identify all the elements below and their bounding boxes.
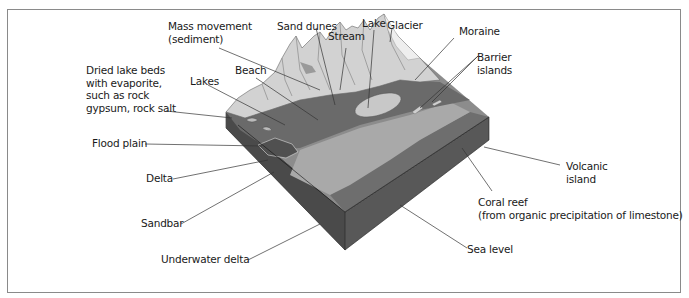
label-sandbar: Sandbar [141, 217, 183, 230]
label-lakes: Lakes [190, 75, 219, 88]
label-delta: Delta [146, 172, 173, 185]
label-coral-reef: Coral reef (from organic precipitation o… [478, 196, 683, 221]
label-stream: Stream [328, 30, 365, 43]
label-beach: Beach [235, 64, 267, 77]
label-mass-movement: Mass movement (sediment) [168, 20, 252, 45]
label-underwater-delta: Underwater delta [161, 253, 249, 266]
label-moraine: Moraine [459, 25, 500, 38]
label-sea-level: Sea level [467, 243, 513, 256]
label-barrier-islands: Barrier islands [477, 51, 512, 76]
label-lake: Lake [362, 17, 386, 30]
label-volcanic-island: Volcanic island [566, 160, 608, 185]
label-flood-plain: Flood plain [92, 137, 147, 150]
label-glacier: Glacier [387, 19, 423, 32]
label-dried-lake-beds: Dried lake beds with evaporite, such as … [86, 64, 176, 114]
